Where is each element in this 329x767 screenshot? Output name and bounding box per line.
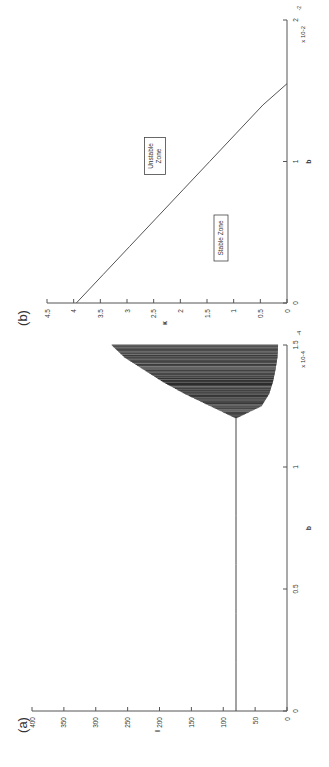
figure: (a) (b) 05010015020025030035040000.511.5… <box>0 0 329 767</box>
y-tick-label: 200 <box>156 717 163 728</box>
panel-b-label: (b) <box>15 310 30 326</box>
y-tick-label: 3 <box>124 309 131 313</box>
y-axis-label: κ <box>161 321 168 325</box>
stable-zone-label-text: Stable Zone <box>217 220 224 255</box>
x-axis-label: b <box>305 159 312 163</box>
y-tick-label: 4 <box>70 309 77 313</box>
x-tick-label: 0 <box>292 301 299 305</box>
y-tick-label: 2 <box>177 309 184 313</box>
y-tick-label: 350 <box>60 717 67 728</box>
svg-text:-4: -4 <box>296 331 302 336</box>
y-tick-label: 150 <box>188 717 195 728</box>
panel-b-chart: 00.511.522.533.544.5012bκx 10-2-2Unstabl… <box>44 6 313 325</box>
figure-svg: (a) (b) 05010015020025030035040000.511.5… <box>0 0 329 767</box>
y-tick-label: 250 <box>124 717 131 728</box>
y-tick-label: 1 <box>230 309 237 313</box>
x-multiplier: x 10-4 <box>300 350 306 367</box>
y-tick-label: 0 <box>284 717 291 721</box>
y-tick-label: 4.5 <box>44 309 51 318</box>
y-tick-label: 100 <box>220 717 227 728</box>
x-tick-label: 1.5 <box>292 340 299 349</box>
y-tick-label: 2.5 <box>150 309 157 318</box>
unstable-zone-label-text: Zone <box>155 148 162 163</box>
svg-text:-2: -2 <box>296 6 302 11</box>
y-tick-label: 0.5 <box>257 309 264 318</box>
x-tick-label: 0 <box>292 709 299 713</box>
x-axis-label: b <box>305 526 312 530</box>
y-axis-label: I <box>154 730 161 732</box>
panel-a-chart: 05010015020025030035040000.511.5bIx 10-4… <box>29 331 313 732</box>
y-tick-label: 300 <box>92 717 99 728</box>
y-tick-label: 1.5 <box>204 309 211 318</box>
y-tick-label: 3.5 <box>97 309 104 318</box>
x-tick-label: 1 <box>292 159 299 163</box>
unstable-zone-label-text: Unstable <box>147 143 154 169</box>
y-tick-label: 50 <box>252 717 259 725</box>
x-tick-label: 0.5 <box>292 584 299 593</box>
x-multiplier: x 10-2 <box>300 25 306 42</box>
x-tick-label: 2 <box>292 18 299 22</box>
stability-boundary-curve <box>76 84 287 303</box>
x-tick-label: 1 <box>292 465 299 469</box>
y-tick-label: 400 <box>29 717 36 728</box>
y-tick-label: 0 <box>284 309 291 313</box>
